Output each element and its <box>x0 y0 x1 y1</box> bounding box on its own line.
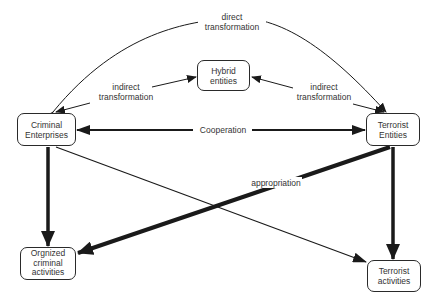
node-label: Terrorist activities <box>378 266 411 286</box>
label-direct-transformation: direct transformation <box>198 12 266 32</box>
node-label: Orgnized criminal activities <box>31 249 66 278</box>
node-label: Criminal Enterprises <box>25 120 68 140</box>
node-label: Terrorist Entities <box>378 120 409 140</box>
label-indirect-transformation-left: indirect transformation <box>96 82 156 102</box>
node-label: Hybrid entities <box>210 66 237 86</box>
node-hybrid-entities: Hybrid entities <box>197 60 250 91</box>
edge-indirect-left-lower <box>56 103 90 112</box>
edge-appropriation <box>78 147 390 253</box>
node-terrorist-entities: Terrorist Entities <box>366 113 420 146</box>
label-cooperation: Cooperation <box>196 125 250 135</box>
node-criminal-enterprises: Criminal Enterprises <box>17 113 76 146</box>
label-indirect-transformation-right: indirect transformation <box>292 82 356 102</box>
node-organized-criminal-activities: Orgnized criminal activities <box>20 247 76 280</box>
edge-indirect-left-upper <box>152 77 196 87</box>
edge-indirect-right-upper <box>252 77 293 88</box>
label-appropriation: appropriation <box>250 178 302 188</box>
diagram-canvas: Criminal Enterprises Terrorist Entities … <box>0 0 436 306</box>
node-terrorist-activities: Terrorist activities <box>367 260 421 292</box>
